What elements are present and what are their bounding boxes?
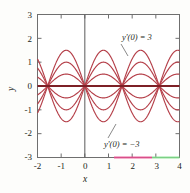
annotation-lower: y'(0) = −3 [103,139,139,149]
y-tick-label-1: 1 [28,57,33,67]
y-tick-label-neg3: -3 [25,152,33,162]
y-tick-label-0: 0 [28,81,33,91]
x-tick-label-1: 1 [107,161,112,171]
plot-svg: y'(0) = 3 y'(0) = −3 3 2 1 0 -1 -2 -3 -2… [0,0,190,193]
y-tick-label-2: 2 [28,34,33,44]
y-tick-label-3: 3 [28,10,33,20]
y-tick-label-neg1: -1 [25,105,33,115]
y-tick-label-neg2: -2 [25,128,33,138]
x-tick-label-4: 4 [177,161,182,171]
x-tick-label-2: 2 [131,161,136,171]
x-tick-label-neg2: -2 [34,161,42,171]
x-tick-label-3: 3 [154,161,159,171]
figure-container: y'(0) = 3 y'(0) = −3 3 2 1 0 -1 -2 -3 -2… [0,0,190,193]
y-axis-label: y [6,86,16,92]
annotation-upper: y'(0) = 3 [121,32,152,42]
x-axis-label: x [82,174,88,184]
x-tick-label-0: 0 [83,161,88,171]
x-tick-label-neg1: -1 [58,161,66,171]
